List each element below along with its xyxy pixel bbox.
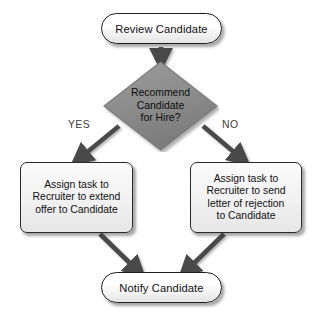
node-start-review-candidate[interactable]: Review Candidate: [101, 13, 222, 44]
node-yes-branch-extend-offer[interactable]: Assign task to Recruiter to extend offer…: [20, 162, 133, 233]
node-no-branch-label-line4: to Candidate: [206, 210, 285, 222]
node-start-label: Review Candidate: [115, 23, 207, 35]
node-decision-text: Recommend Candidate for Hire?: [102, 60, 219, 152]
node-no-branch-label-line1: Assign task to: [206, 173, 285, 185]
node-decision-label-line1: Recommend: [131, 87, 190, 100]
edge-label-yes: YES: [68, 119, 90, 130]
node-decision-label-line3: for Hire?: [131, 112, 190, 125]
flowchart-canvas: Review Candidate Recommend Candidate for…: [0, 0, 321, 317]
node-no-branch-label-line2: Recruiter to send: [206, 185, 285, 197]
node-decision-recommend-candidate[interactable]: Recommend Candidate for Hire?: [102, 60, 219, 152]
node-no-branch-label-line3: letter of rejection: [206, 198, 285, 210]
node-yes-branch-label-line1: Assign task to: [33, 179, 121, 191]
edge-yes-to-end: [100, 234, 137, 270]
node-end-notify-candidate[interactable]: Notify Candidate: [101, 272, 222, 303]
node-no-branch-letter-of-rejection[interactable]: Assign task to Recruiter to send letter …: [190, 162, 302, 233]
edge-layer: [0, 0, 321, 317]
node-decision-label-line2: Candidate: [131, 100, 190, 113]
edge-label-no: NO: [222, 119, 238, 130]
node-yes-branch-label-line3: offer to Candidate: [33, 204, 121, 216]
edge-no-to-end: [187, 234, 224, 270]
node-yes-branch-label-line2: Recruiter to extend: [33, 191, 121, 203]
node-end-label: Notify Candidate: [119, 282, 203, 294]
